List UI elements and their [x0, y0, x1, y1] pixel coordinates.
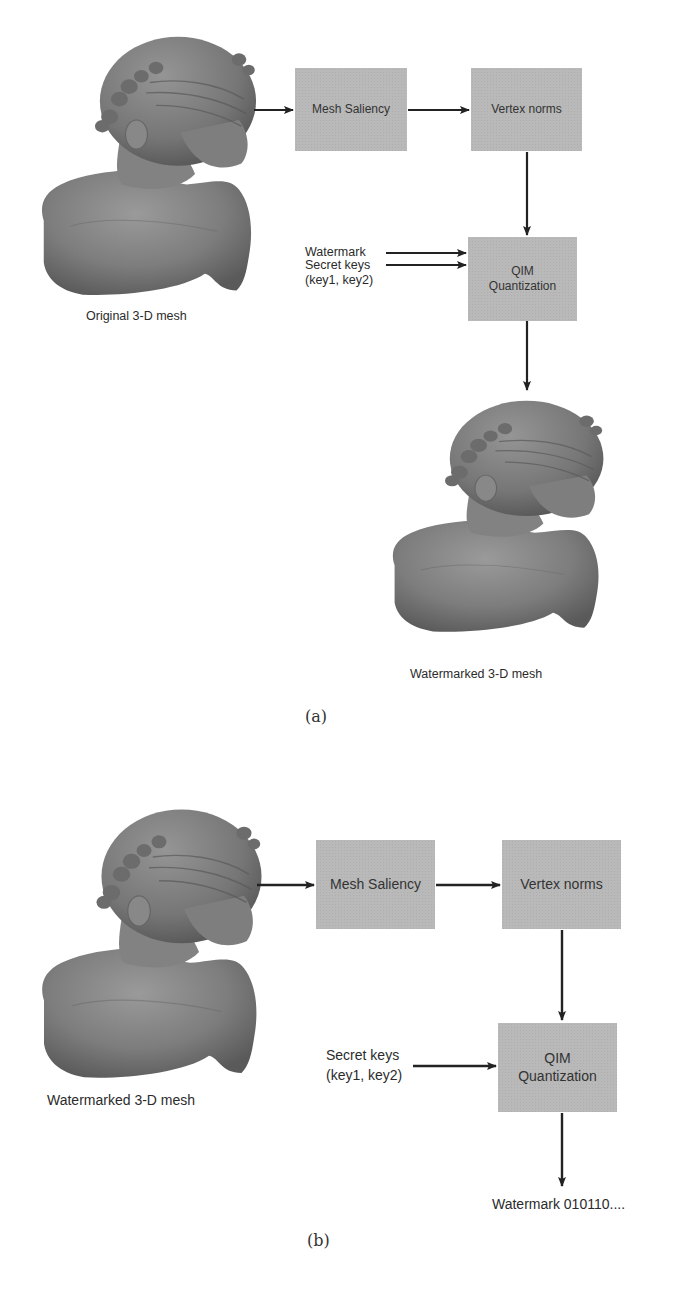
- secret-keys-label-a: Secret keys: [305, 258, 370, 273]
- qim-label-line1: QIM: [511, 264, 534, 279]
- secret-keys-values-a: (key1, key2): [305, 273, 373, 288]
- figure-a-caption: (a): [305, 707, 327, 726]
- mesh-saliency-box-b: Mesh Saliency: [316, 840, 435, 929]
- watermarked-mesh-label-b: Watermarked 3-D mesh: [47, 1092, 195, 1109]
- secret-keys-label-b: Secret keys: [326, 1047, 399, 1064]
- original-mesh-bust-a: [42, 37, 256, 295]
- mesh-saliency-box-a: Mesh Saliency: [295, 68, 407, 151]
- qim-label-line1: QIM: [544, 1050, 570, 1068]
- vertex-norms-label: Vertex norms: [520, 876, 602, 894]
- watermarked-mesh-bust-a: [393, 401, 604, 632]
- mesh-saliency-label: Mesh Saliency: [330, 876, 421, 894]
- watermarked-mesh-bust-b: [42, 809, 261, 1077]
- vertex-norms-box-a: Vertex norms: [471, 68, 582, 151]
- qim-label-line2: Quantization: [518, 1068, 597, 1086]
- qim-label-line2: Quantization: [489, 279, 556, 294]
- vertex-norms-box-b: Vertex norms: [502, 840, 621, 929]
- qim-quantization-box-a: QIM Quantization: [468, 237, 577, 321]
- extracted-watermark-label: Watermark 010110....: [492, 1196, 625, 1213]
- watermarked-mesh-label-a: Watermarked 3-D mesh: [410, 667, 542, 682]
- figure-b-caption: (b): [307, 1231, 330, 1250]
- vertex-norms-label: Vertex norms: [491, 102, 562, 117]
- qim-quantization-box-b: QIM Quantization: [498, 1023, 617, 1112]
- secret-keys-values-b: (key1, key2): [326, 1067, 402, 1084]
- original-mesh-label: Original 3-D mesh: [86, 309, 187, 324]
- mesh-saliency-label: Mesh Saliency: [312, 102, 390, 117]
